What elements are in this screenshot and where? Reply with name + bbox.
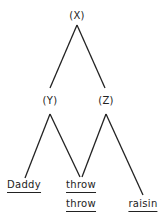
- node-y: (Y): [43, 95, 58, 107]
- edge-x-y: [50, 25, 77, 88]
- edge-z-raisin: [106, 114, 143, 195]
- edge-z-throw: [82, 114, 106, 177]
- node-z: (Z): [98, 95, 114, 107]
- leaf-daddy: Daddy: [7, 179, 41, 193]
- edge-x-z: [77, 25, 105, 88]
- leaf-raisin: raisin: [128, 198, 157, 212]
- leaf-throw-1: throw: [66, 179, 96, 193]
- node-x: (X): [69, 10, 85, 22]
- edge-y-daddy: [25, 114, 50, 178]
- leaf-throw-2: throw: [66, 198, 96, 212]
- edge-y-throw: [50, 114, 80, 177]
